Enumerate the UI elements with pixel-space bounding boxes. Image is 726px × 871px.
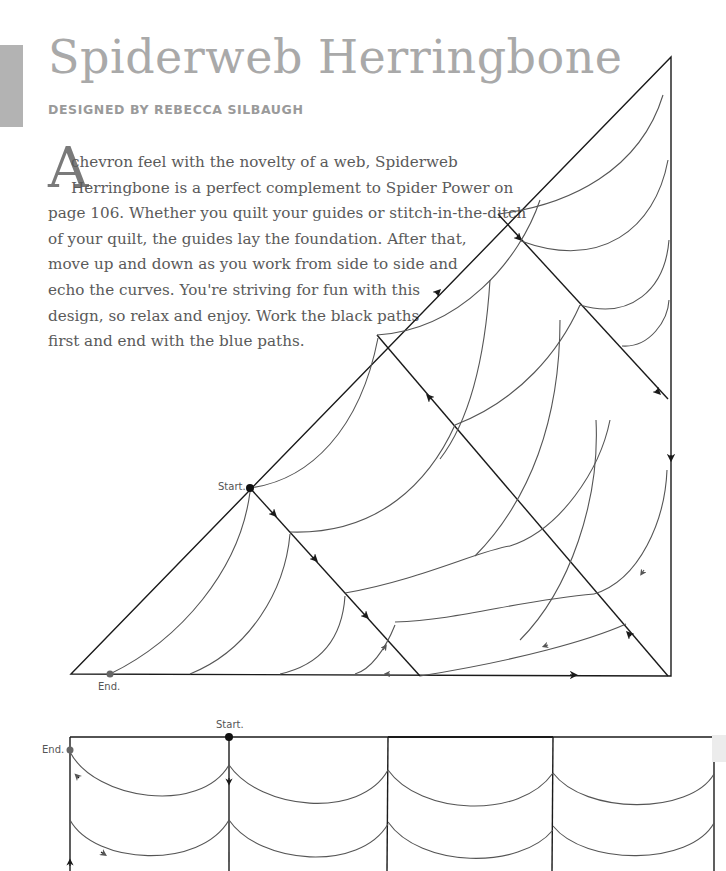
page-edge-tab: [712, 735, 726, 762]
triangle-end-label: End.: [98, 681, 120, 692]
grid-end-label: End.: [42, 744, 64, 755]
end-dot: [107, 671, 114, 678]
web-curves: [110, 95, 669, 676]
grid-curves: [70, 752, 714, 862]
grid-end-dot: [67, 747, 74, 754]
grid-arrows: [70, 776, 229, 866]
start-dot: [246, 484, 254, 492]
grid-start-dot: [225, 733, 233, 741]
triangle-start-label: Start.: [218, 481, 246, 492]
grid-start-label: Start.: [216, 719, 244, 730]
triangle-quilting-diagram: [0, 0, 726, 871]
